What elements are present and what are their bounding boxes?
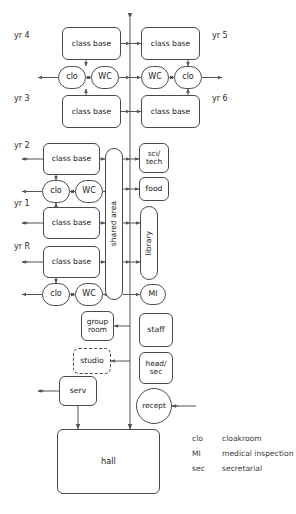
- node-label: WC: [148, 73, 162, 81]
- node-label: class base: [52, 155, 91, 163]
- node-label: studio: [80, 357, 103, 365]
- node-label: clo: [50, 187, 62, 195]
- legend-value: cloakroom: [222, 434, 262, 443]
- node-wc-right-top[interactable]: WC: [141, 66, 169, 89]
- node-label: staff: [147, 326, 164, 334]
- node-label: hall: [101, 457, 116, 466]
- node-classbase-yr2[interactable]: class base: [43, 143, 100, 175]
- node-label: shared area: [110, 201, 118, 246]
- node-classbase-yr4[interactable]: class base: [62, 27, 121, 60]
- node-clo-yr2[interactable]: clo: [42, 180, 70, 203]
- diagram-canvas: class baseclass basecloWCWCcloclass base…: [0, 0, 296, 514]
- year-label-yr5: yr 5: [212, 31, 228, 40]
- node-label: clo: [66, 73, 78, 81]
- node-clo-yrR[interactable]: clo: [42, 283, 70, 306]
- year-label-yr1: yr 1: [14, 199, 30, 208]
- legend-key: clo: [192, 434, 203, 443]
- node-mi[interactable]: MI: [140, 284, 166, 305]
- year-label-yr2: yr 2: [14, 141, 30, 150]
- node-label: food: [146, 185, 163, 193]
- legend-value: medical inspection: [222, 449, 293, 458]
- node-group-room[interactable]: group room: [81, 311, 114, 341]
- node-label: WC: [82, 187, 96, 195]
- year-label-yr3: yr 3: [14, 94, 30, 103]
- node-shared-area[interactable]: shared area: [105, 148, 123, 300]
- node-label: WC: [98, 73, 112, 81]
- node-clo-yr5[interactable]: clo: [174, 66, 202, 89]
- year-label-yrR: yr R: [14, 242, 30, 251]
- node-clo-yr4[interactable]: clo: [58, 66, 86, 89]
- legend-value: secretarial: [222, 464, 262, 473]
- node-label: library: [145, 231, 153, 255]
- node-label: class base: [52, 219, 91, 227]
- node-label: class base: [52, 258, 91, 266]
- node-studio[interactable]: studio: [73, 348, 111, 374]
- node-recept[interactable]: recept: [136, 388, 172, 424]
- node-library[interactable]: library: [140, 206, 158, 280]
- node-food[interactable]: food: [139, 177, 169, 201]
- node-label: MI: [148, 290, 157, 298]
- node-wc-left-top[interactable]: WC: [91, 66, 119, 89]
- node-label: sci/ tech: [146, 150, 162, 166]
- node-label: clo: [50, 290, 62, 298]
- node-label: class base: [151, 108, 190, 116]
- node-hall[interactable]: hall: [57, 429, 160, 494]
- node-classbase-yr6[interactable]: class base: [141, 95, 200, 128]
- node-label: clo: [182, 73, 194, 81]
- node-label: class base: [72, 108, 111, 116]
- year-label-yr6: yr 6: [212, 94, 228, 103]
- node-label: recept: [142, 402, 166, 410]
- node-label: group room: [87, 318, 108, 334]
- node-label: head/ sec: [146, 360, 167, 376]
- node-wc-yr2[interactable]: WC: [75, 180, 103, 203]
- node-label: WC: [82, 290, 96, 298]
- node-wc-yrR[interactable]: WC: [75, 283, 103, 306]
- node-label: class base: [72, 40, 111, 48]
- node-label: class base: [151, 40, 190, 48]
- node-classbase-yr1[interactable]: class base: [43, 207, 100, 239]
- node-label: serv: [70, 387, 87, 395]
- node-classbase-yr3[interactable]: class base: [62, 95, 121, 128]
- node-classbase-yrR[interactable]: class base: [43, 246, 100, 278]
- legend-key: MI: [192, 449, 201, 458]
- node-serv[interactable]: serv: [59, 376, 97, 406]
- node-classbase-yr5[interactable]: class base: [141, 27, 200, 60]
- legend-key: sec: [192, 464, 205, 473]
- year-label-yr4: yr 4: [14, 31, 30, 40]
- node-sci-tech[interactable]: sci/ tech: [139, 143, 169, 173]
- node-staff[interactable]: staff: [139, 313, 173, 347]
- node-head-sec[interactable]: head/ sec: [139, 352, 173, 384]
